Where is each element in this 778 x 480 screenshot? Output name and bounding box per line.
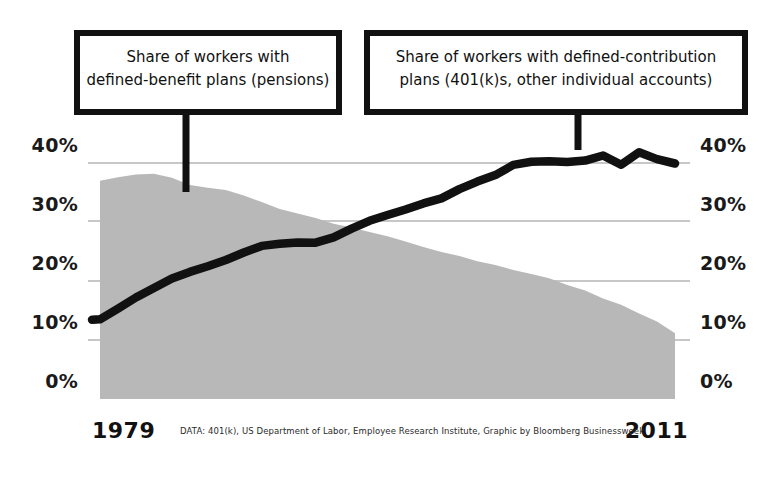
callout-1-line-1: Share of workers with [127,48,290,66]
y-tick-right-2: 20% [700,252,746,274]
y-tick-left-1: 30% [32,193,78,215]
callout-2-line-1: Share of workers with defined-contributi… [396,48,716,66]
y-tick-right-1: 30% [700,193,746,215]
y-tick-left-0: 40% [32,134,78,156]
callout-2-line-2: plans (401(k)s, other individual account… [400,71,713,89]
source-caption: DATA: 401(k), US Department of Labor, Em… [180,426,644,436]
y-tick-right-3: 10% [700,311,746,333]
y-tick-right-0: 40% [700,134,746,156]
y-tick-left-2: 20% [32,252,78,274]
x-label-start: 1979 [92,418,155,443]
y-tick-right-4: 0% [700,370,733,392]
y-tick-left-4: 0% [45,370,78,392]
y-tick-left-3: 10% [32,311,78,333]
chart-figure: 40% 30% 20% 10% 0% 40% 30% 20% 10% 0% 19… [0,0,778,480]
chart-canvas: 40% 30% 20% 10% 0% 40% 30% 20% 10% 0% 19… [0,0,778,480]
callout-1-line-2: defined-benefit plans (pensions) [87,71,330,89]
